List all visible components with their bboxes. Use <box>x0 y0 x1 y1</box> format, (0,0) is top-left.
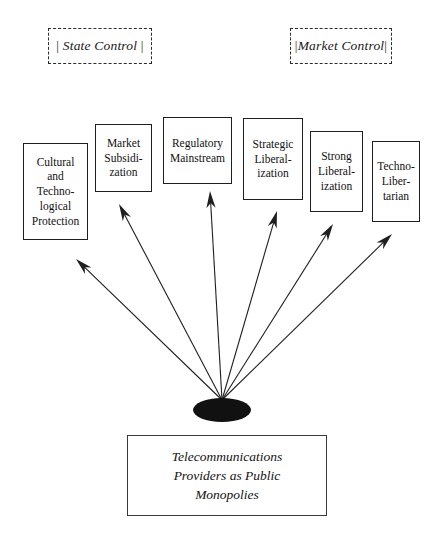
dashed-label-state-control: | State Control | <box>48 28 152 64</box>
arrow-shaft-strategic-liberalization <box>222 222 274 400</box>
category-box-regulatory-mainstream: Regulatory Mainstream <box>163 117 232 184</box>
category-label: Strong Liberal- ization <box>318 149 355 193</box>
category-box-strong-liberalization: Strong Liberal- ization <box>310 131 363 212</box>
arrow-head-market-subsidization <box>119 204 131 221</box>
arrow-shaft-market-subsidization <box>124 214 222 400</box>
source-box-label: Telecommunications Providers as Public M… <box>172 447 283 504</box>
category-box-market-subsidization: Market Subsidi- zation <box>95 124 152 192</box>
arrow-head-cultural-and-technological-protection <box>76 259 91 274</box>
diagram-canvas: | State Control | |Market Control| Cultu… <box>0 0 446 546</box>
state-control-text: | State Control | <box>56 38 143 54</box>
arrow-shaft-strong-liberalization <box>222 233 327 400</box>
origin-node-ellipse <box>193 398 251 422</box>
source-box-telecommunications-providers: Telecommunications Providers as Public M… <box>127 435 327 516</box>
arrow-shaft-regulatory-mainstream <box>211 202 222 400</box>
category-box-strategic-liberalization: Strategic Liberal- ization <box>243 118 303 200</box>
bracket-right-icon: | <box>384 38 387 53</box>
arrow-head-strategic-liberalization <box>268 211 277 229</box>
category-label: Strategic Liberal- ization <box>253 137 294 181</box>
arrow-head-techno-libertarian <box>377 234 392 249</box>
arrow-head-regulatory-mainstream <box>206 191 215 208</box>
market-control-label: Market Control <box>298 38 385 53</box>
bracket-right-icon: | <box>141 38 144 53</box>
category-label: Techno- Liber- tarian <box>377 159 415 203</box>
arrow-head-strong-liberalization <box>320 224 333 241</box>
arrow-shaft-cultural-and-technological-protection <box>84 267 222 400</box>
arrow-shaft-techno-libertarian <box>222 242 384 400</box>
category-label: Cultural and Techno- logical Protection <box>32 155 79 229</box>
market-control-text: |Market Control| <box>295 38 387 54</box>
category-label: Regulatory Mainstream <box>170 136 225 165</box>
category-label: Market Subsidi- zation <box>104 136 142 180</box>
category-box-techno-libertarian: Techno- Liber- tarian <box>372 141 420 222</box>
state-control-label: State Control <box>63 38 137 53</box>
bracket-left-icon: | <box>56 38 59 53</box>
category-box-cultural-and-technological-protection: Cultural and Techno- logical Protection <box>23 143 88 240</box>
dashed-label-market-control: |Market Control| <box>290 28 392 64</box>
